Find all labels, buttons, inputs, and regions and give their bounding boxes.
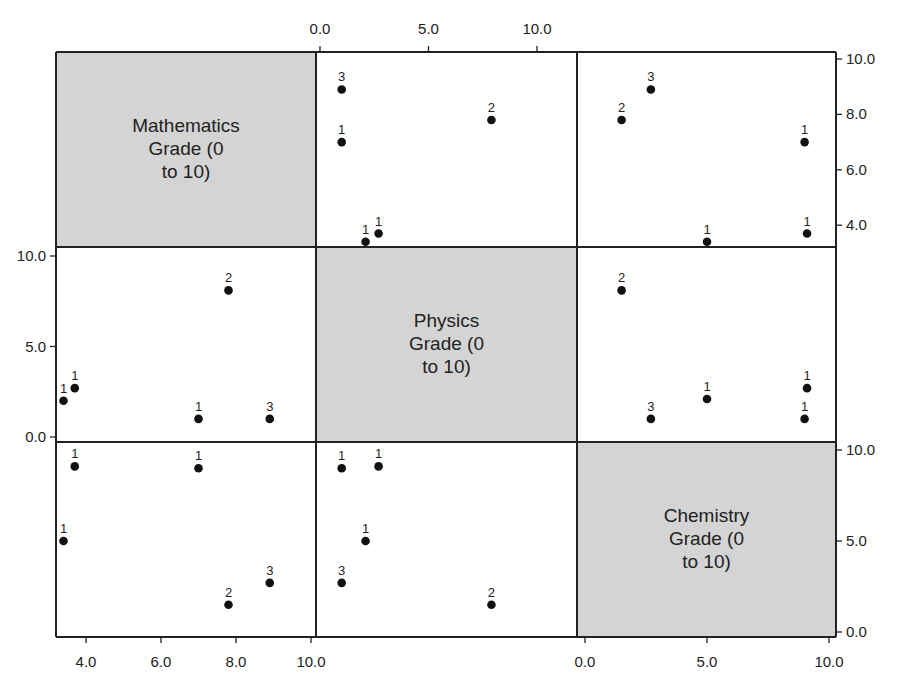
data-point	[800, 138, 809, 147]
data-point	[800, 415, 809, 424]
data-point	[617, 286, 626, 295]
point-count-label: 1	[801, 122, 808, 137]
point-count-label: 1	[338, 122, 345, 137]
data-point	[374, 462, 383, 471]
variable-label: Grade (0	[669, 528, 744, 549]
point-count-label: 3	[338, 563, 345, 578]
data-point	[337, 579, 346, 588]
variable-label: Mathematics	[132, 115, 240, 136]
data-point	[803, 384, 812, 393]
point-count-label: 1	[60, 381, 67, 396]
tick-label: 10.0	[296, 653, 325, 670]
tick-label: 5.0	[418, 20, 439, 37]
data-point	[803, 229, 812, 238]
point-count-label: 1	[375, 214, 382, 229]
tick-label: 8.0	[846, 105, 867, 122]
data-point	[337, 464, 346, 473]
tick-label: 4.0	[846, 216, 867, 233]
data-point	[703, 395, 712, 404]
point-count-label: 3	[266, 399, 273, 414]
tick-label: 0.0	[846, 623, 867, 640]
point-count-label: 1	[71, 446, 78, 461]
tick-label: 0.0	[575, 653, 596, 670]
data-point	[265, 579, 274, 588]
tick-label: 8.0	[226, 653, 247, 670]
data-point	[647, 415, 656, 424]
point-count-label: 2	[618, 100, 625, 115]
point-count-label: 3	[338, 69, 345, 84]
tick-label: 10.0	[522, 20, 551, 37]
variable-label: Chemistry	[664, 505, 750, 526]
data-point	[194, 464, 203, 473]
chart-canvas: MathematicsGrade (0to 10)PhysicsGrade (0…	[0, 0, 898, 698]
data-point	[70, 462, 79, 471]
tick-label: 10.0	[17, 247, 46, 264]
data-point	[487, 600, 496, 609]
data-point	[337, 85, 346, 94]
data-point	[265, 415, 274, 424]
tick-label: 0.0	[25, 428, 46, 445]
point-count-label: 2	[488, 585, 495, 600]
data-point	[224, 286, 233, 295]
point-count-label: 1	[338, 448, 345, 463]
point-count-label: 1	[362, 521, 369, 536]
point-count-label: 1	[195, 399, 202, 414]
point-count-label: 3	[647, 399, 654, 414]
point-count-label: 2	[225, 585, 232, 600]
point-count-label: 1	[60, 521, 67, 536]
tick-label: 10.0	[846, 441, 875, 458]
variable-label: Grade (0	[149, 138, 224, 159]
data-point	[224, 600, 233, 609]
variable-label: Physics	[414, 310, 479, 331]
variable-label: to 10)	[682, 551, 731, 572]
scatterplot-matrix: MathematicsGrade (0to 10)PhysicsGrade (0…	[0, 0, 898, 698]
tick-label: 6.0	[151, 653, 172, 670]
point-count-label: 1	[703, 222, 710, 237]
point-count-label: 2	[488, 100, 495, 115]
variable-label: to 10)	[422, 356, 471, 377]
point-count-label: 1	[803, 214, 810, 229]
data-point	[703, 238, 712, 247]
point-count-label: 1	[375, 446, 382, 461]
tick-label: 5.0	[846, 532, 867, 549]
point-count-label: 1	[803, 368, 810, 383]
data-point	[361, 238, 370, 247]
point-count-label: 1	[703, 379, 710, 394]
data-point	[59, 397, 68, 406]
data-point	[361, 537, 370, 546]
point-count-label: 1	[71, 368, 78, 383]
tick-label: 5.0	[25, 338, 46, 355]
data-point	[374, 229, 383, 238]
tick-label: 6.0	[846, 161, 867, 178]
point-count-label: 1	[801, 399, 808, 414]
data-point	[487, 116, 496, 125]
data-point	[70, 384, 79, 393]
tick-label: 0.0	[310, 20, 331, 37]
variable-label: Grade (0	[409, 333, 484, 354]
tick-label: 10.0	[814, 653, 843, 670]
variable-label: to 10)	[162, 161, 211, 182]
point-count-label: 1	[195, 448, 202, 463]
point-count-label: 2	[618, 270, 625, 285]
data-point	[194, 415, 203, 424]
data-point	[337, 138, 346, 147]
point-count-label: 1	[362, 222, 369, 237]
point-count-label: 3	[266, 563, 273, 578]
data-point	[59, 537, 68, 546]
tick-label: 4.0	[76, 653, 97, 670]
point-count-label: 3	[647, 69, 654, 84]
tick-label: 10.0	[846, 50, 875, 67]
tick-label: 5.0	[697, 653, 718, 670]
point-count-label: 2	[225, 270, 232, 285]
data-point	[617, 116, 626, 125]
data-point	[647, 85, 656, 94]
